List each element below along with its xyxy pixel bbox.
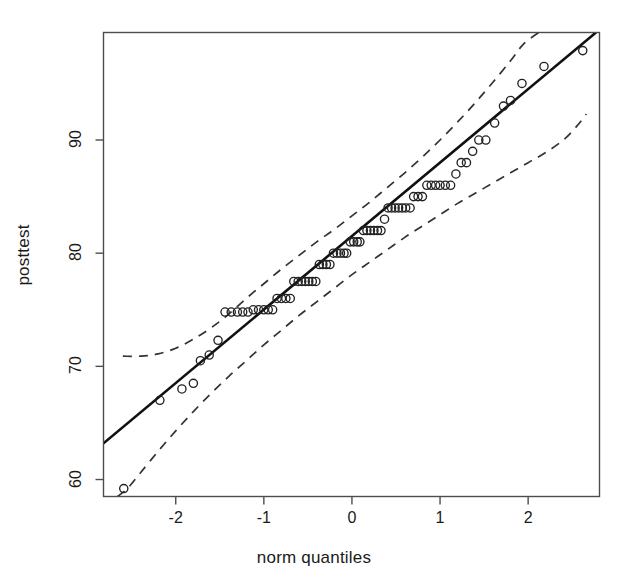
y-axis-title: posttest (14, 155, 34, 355)
x-tick-label: -2 (156, 509, 196, 527)
x-axis-ticks (176, 497, 528, 505)
y-tick-label: 90 (67, 119, 85, 159)
x-axis-title: norm quantiles (0, 548, 628, 568)
qq-plot-figure: -2-1012 60708090 norm quantiles posttest (0, 0, 628, 585)
y-tick-label: 80 (67, 232, 85, 272)
y-tick-label: 70 (67, 345, 85, 385)
y-axis-ticks (96, 140, 104, 480)
plot-canvas (0, 0, 628, 585)
x-tick-label: -1 (244, 509, 284, 527)
x-tick-label: 2 (508, 509, 548, 527)
y-tick-label: 60 (67, 459, 85, 499)
plot-box-border (104, 33, 600, 497)
x-tick-label: 0 (332, 509, 372, 527)
x-tick-label: 1 (420, 509, 460, 527)
